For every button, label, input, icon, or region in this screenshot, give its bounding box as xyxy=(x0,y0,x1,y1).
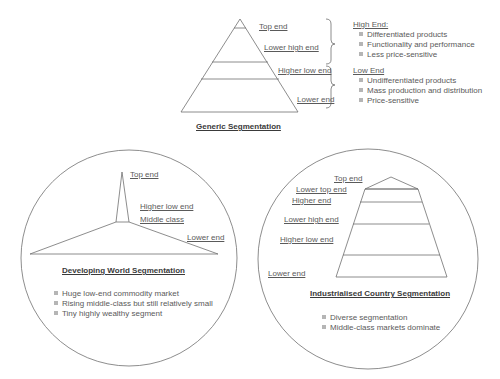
list-item: Tiny highly wealthy segment xyxy=(54,309,213,319)
industrialised-label-higher-low-end: Higher low end xyxy=(280,235,333,245)
industrialised-circle xyxy=(258,149,478,369)
low-end-list: Low End Undifferentiated products Mass p… xyxy=(353,66,482,106)
high-end-heading: High End: xyxy=(353,20,475,30)
industrialised-label-lower-high-end: Lower high end xyxy=(284,215,339,225)
list-item: Differentiated products xyxy=(353,30,475,40)
generic-label-lower-end: Lower end xyxy=(297,95,334,105)
industrialised-pyramid xyxy=(336,177,447,277)
industrialised-label-lower-end: Lower end xyxy=(268,269,305,279)
list-item: Mass production and distribution xyxy=(353,86,482,96)
developing-label-higher-low-end: Higher low end xyxy=(140,202,193,212)
generic-label-higher-low-end: Higher low end xyxy=(278,66,331,76)
list-item: Huge low-end commodity market xyxy=(54,289,213,299)
industrialised-list: Diverse segmentation Middle-class market… xyxy=(322,313,440,333)
developing-label-top-end: Top end xyxy=(130,170,158,180)
list-item: Diverse segmentation xyxy=(322,313,440,323)
list-item: Price-sensitive xyxy=(353,96,482,106)
generic-title: Generic Segmentation xyxy=(196,122,281,132)
low-end-heading: Low End xyxy=(353,66,482,76)
high-end-bracket xyxy=(326,19,335,64)
list-item: Less price-sensitive xyxy=(353,50,475,60)
list-item: Middle-class markets dominate xyxy=(322,323,440,333)
list-item: Rising middle-class but still relatively… xyxy=(54,299,213,309)
industrialised-label-top-end: Top end xyxy=(334,174,362,184)
generic-label-top-end: Top end xyxy=(259,22,287,32)
industrialised-title: Industrialised Country Segmentation xyxy=(310,289,450,299)
list-item: Undifferentiated products xyxy=(353,76,482,86)
industrialised-label-higher-end: Higher end xyxy=(292,196,331,206)
developing-label-lower-end: Lower end xyxy=(187,233,224,243)
high-end-list: High End: Differentiated products Functi… xyxy=(353,20,475,60)
developing-list: Huge low-end commodity market Rising mid… xyxy=(54,289,213,319)
industrialised-label-lower-top-end: Lower top end xyxy=(296,185,347,195)
developing-label-middle-class: Middle class xyxy=(140,215,184,225)
developing-circle xyxy=(21,150,237,366)
list-item: Functionality and performance xyxy=(353,40,475,50)
developing-title: Developing World Segmentation xyxy=(62,266,185,276)
generic-label-lower-high-end: Lower high end xyxy=(264,43,319,53)
